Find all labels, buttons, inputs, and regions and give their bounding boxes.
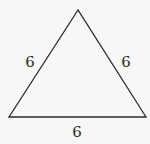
right-side-label: 6 (121, 53, 131, 71)
left-side-label: 6 (25, 53, 35, 71)
bottom-side-label: 6 (72, 123, 82, 141)
triangle-diagram: 6 6 6 (0, 0, 150, 144)
